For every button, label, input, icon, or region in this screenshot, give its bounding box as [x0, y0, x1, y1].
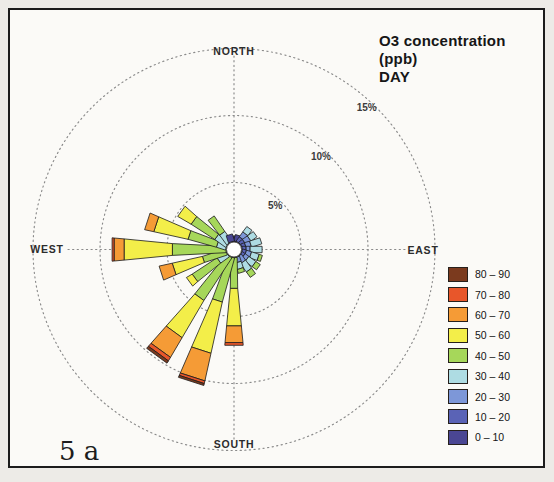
legend-swatch — [448, 369, 468, 384]
ring-label-5: 5% — [268, 200, 282, 211]
legend-row: 40 – 50 — [448, 346, 510, 366]
chart-subtitle: DAY — [379, 68, 543, 86]
legend-swatch — [448, 348, 468, 363]
chart-title-block: O3 concentration (ppb) DAY — [379, 32, 543, 86]
legend-bin-label: 10 – 20 — [475, 411, 510, 423]
petal-segment-180-60–70 — [225, 326, 243, 343]
petal-segment-270-50–60 — [124, 239, 172, 260]
petal-segment-180-70–80 — [225, 343, 243, 346]
petal-segment-270-70–80 — [112, 238, 114, 261]
legend-swatch — [448, 328, 468, 343]
legend-swatch — [448, 267, 468, 282]
petal-segment-180-50–60 — [227, 288, 242, 326]
legend-swatch — [448, 389, 468, 404]
ring-label-15: 15% — [357, 102, 377, 113]
compass-east-label: EAST — [407, 244, 438, 256]
legend-row: 10 – 20 — [448, 407, 510, 427]
petal-segment-270-60–70 — [114, 238, 124, 261]
ring-label-10: 10% — [311, 151, 331, 162]
legend-row: 20 – 30 — [448, 386, 510, 406]
compass-south-label: SOUTH — [214, 438, 255, 450]
legend-swatch — [448, 287, 468, 302]
legend-bin-label: 30 – 40 — [475, 370, 510, 382]
legend-swatch — [448, 307, 468, 322]
legend-bin-label: 0 – 10 — [475, 431, 504, 443]
legend-row: 60 – 70 — [448, 305, 510, 325]
legend-bin-label: 20 – 30 — [475, 391, 510, 403]
legend-row: 50 – 60 — [448, 325, 510, 345]
chart-title: O3 concentration (ppb) — [379, 32, 543, 68]
figure-frame: O3 concentration (ppb) DAY NORTH SOUTH W… — [8, 8, 545, 468]
legend-row: 70 – 80 — [448, 284, 510, 304]
compass-west-label: WEST — [30, 243, 64, 255]
legend-bin-label: 70 – 80 — [475, 289, 510, 301]
legend-bin-label: 50 – 60 — [475, 329, 510, 341]
legend-bin-label: 80 – 90 — [475, 268, 510, 280]
legend: 80 – 9070 – 8060 – 7050 – 6040 – 5030 – … — [448, 264, 510, 448]
legend-row: 30 – 40 — [448, 366, 510, 386]
legend-bin-label: 40 – 50 — [475, 350, 510, 362]
legend-swatch — [448, 430, 468, 445]
rose-hub — [227, 242, 242, 257]
legend-row: 80 – 90 — [448, 264, 510, 284]
legend-swatch — [448, 409, 468, 424]
figure-number-label: 5 a — [59, 436, 99, 466]
compass-north-label: NORTH — [213, 45, 254, 57]
legend-bin-label: 60 – 70 — [475, 309, 510, 321]
legend-row: 0 – 10 — [448, 427, 510, 447]
